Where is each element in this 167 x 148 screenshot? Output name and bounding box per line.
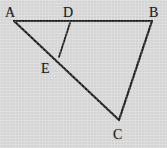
vertex-label-D: D: [63, 6, 73, 20]
geometry-canvas: [0, 0, 167, 148]
vertex-label-A: A: [5, 6, 15, 20]
segment-DE: [59, 23, 70, 57]
vertex-label-C: C: [113, 128, 122, 142]
geometry-figure: A D B E C: [0, 0, 167, 148]
vertex-label-E: E: [41, 62, 50, 76]
segment-BC: [119, 21, 152, 120]
vertex-label-B: B: [149, 6, 158, 20]
